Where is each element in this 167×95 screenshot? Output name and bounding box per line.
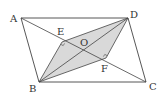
- label-f: F: [101, 63, 108, 74]
- label-d: D: [130, 9, 138, 20]
- label-c: C: [149, 81, 157, 92]
- label-a: A: [9, 13, 18, 24]
- geometry-diagram: A D E O F B C: [0, 0, 167, 95]
- diagonal-bd: [39, 18, 128, 82]
- label-b: B: [29, 83, 36, 94]
- label-e: E: [57, 26, 64, 37]
- label-o: O: [80, 37, 88, 48]
